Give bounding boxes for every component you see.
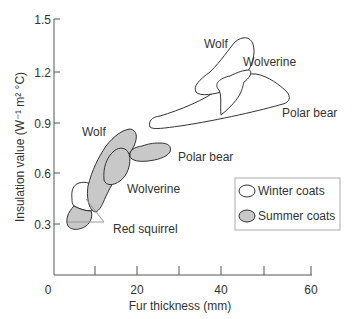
y-tick-labels: 1.5 1.2 0.9 0.6 0.3 (34, 13, 51, 232)
x-tick-label: 60 (304, 283, 318, 297)
summer-regions (67, 129, 171, 229)
legend-swatch-winter (239, 185, 255, 197)
chart-svg: 1.5 1.2 0.9 0.6 0.3 0 20 40 60 Fur thick… (0, 0, 355, 319)
x-tick-label: 20 (130, 283, 144, 297)
y-tick-label: 1.5 (34, 13, 51, 27)
y-tick-label: 1.2 (34, 66, 51, 80)
legend-label-summer: Summer coats (258, 209, 335, 223)
x-tick-label: 0 (45, 283, 52, 297)
legend-swatch-summer (239, 210, 255, 222)
y-tick-label: 0.3 (34, 218, 51, 232)
y-axis (54, 19, 60, 275)
chart: 1.5 1.2 0.9 0.6 0.3 0 20 40 60 Fur thick… (0, 0, 355, 319)
x-axis-label: Fur thickness (mm) (129, 299, 232, 313)
label-red-squirrel: Red squirrel (113, 222, 178, 236)
label-winter-wolf: Wolf (204, 37, 228, 51)
y-axis-label: Insulation value (W⁻¹ m² °C) (13, 72, 27, 222)
legend: Winter coats Summer coats (235, 178, 340, 230)
x-tick-label: 40 (214, 283, 228, 297)
x-axis (54, 266, 312, 275)
label-winter-wolverine: Wolverine (243, 55, 296, 69)
x-tick-labels: 0 20 40 60 (45, 283, 318, 297)
y-tick-label: 0.6 (34, 167, 51, 181)
label-summer-wolf: Wolf (82, 125, 106, 139)
label-summer-wolverine: Wolverine (127, 182, 180, 196)
label-winter-polar-bear: Polar bear (282, 106, 337, 120)
region-summer-polar-bear (130, 143, 171, 161)
legend-label-winter: Winter coats (258, 184, 325, 198)
label-summer-polar-bear: Polar bear (178, 150, 233, 164)
y-tick-label: 0.9 (34, 117, 51, 131)
